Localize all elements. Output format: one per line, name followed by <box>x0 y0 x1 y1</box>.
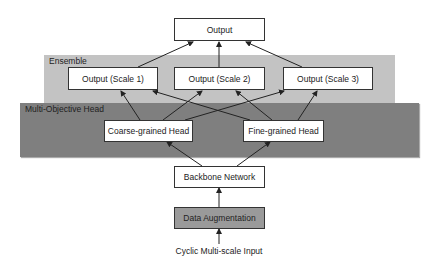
output-scale3-node: Output (Scale 3) <box>283 67 373 90</box>
edge-fine-to-scale2 <box>236 91 272 120</box>
output-scale2-node: Output (Scale 2) <box>174 67 265 90</box>
data-augmentation-node: Data Augmentation <box>174 207 265 229</box>
input-caption: Cyclic Multi-scale Input <box>159 246 279 256</box>
fine-grained-head-node: Fine-grained Head <box>243 120 324 142</box>
edge-backbone-to-fine <box>237 142 270 166</box>
edge-scale1-to-output <box>138 42 193 67</box>
edge-coarse-to-scale1 <box>121 91 140 120</box>
output-node: Output <box>174 18 265 41</box>
edge-fine-to-scale3 <box>298 91 317 120</box>
backbone-network-node: Backbone Network <box>174 166 265 188</box>
edge-scale3-to-output <box>246 42 302 67</box>
output-scale1-node: Output (Scale 1) <box>68 67 158 90</box>
coarse-grained-head-node: Coarse-grained Head <box>104 120 193 142</box>
edge-backbone-to-coarse <box>167 142 202 166</box>
